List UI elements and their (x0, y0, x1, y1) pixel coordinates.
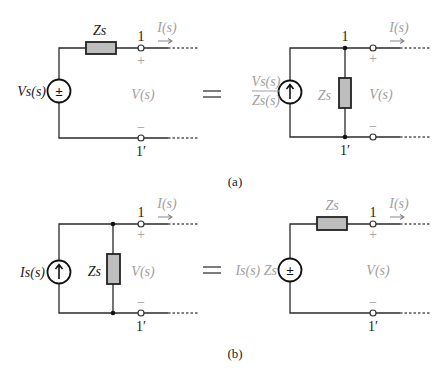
panel-a-equals (203, 91, 221, 97)
current-label: I(s) (156, 20, 177, 36)
source-label: Is(s) (19, 265, 45, 281)
plus-minus-glyph: ± (286, 263, 293, 278)
series-impedance (86, 42, 116, 54)
caption-b: (b) (227, 346, 242, 361)
panel-b-equals (203, 267, 221, 273)
current-label: I(s) (388, 196, 409, 212)
current-label: I(s) (388, 20, 409, 36)
terminal-1-prime-label: 1′ (136, 144, 146, 159)
terminal-1-label: 1 (138, 29, 145, 44)
terminal-1-prime-label: 1′ (368, 319, 378, 334)
shunt-impedance (107, 254, 120, 284)
voltage-label: V(s) (366, 263, 390, 279)
series-impedance (317, 217, 347, 230)
junction-node-bottom (111, 311, 116, 316)
terminal-1-prime-label: 1′ (340, 143, 350, 158)
voltage-label: V(s) (369, 87, 393, 103)
plus-sign: + (137, 227, 145, 242)
shunt-impedance (339, 78, 351, 108)
junction-node-top (343, 46, 348, 51)
plus-sign: + (369, 51, 377, 66)
minus-sign: − (137, 120, 145, 135)
source-label-numerator: Vs(s) (252, 74, 281, 90)
panel-b-right-circuit: Zs ± Is(s) Zs 1 1′ + − V(s) I(s) (234, 196, 430, 334)
plus-sign: + (369, 227, 377, 242)
terminal-1-prime (138, 310, 144, 316)
terminal-1-label: 1 (370, 205, 377, 220)
impedance-label: Zs (93, 23, 107, 38)
voltage-label: V(s) (131, 264, 155, 280)
panel-a-left-circuit: Zs ± Vs(s) 1 1′ + − V(s) I(s) (17, 20, 198, 159)
current-label: I(s) (156, 196, 177, 212)
panel-b-left-circuit: Zs Is(s) 1 1′ + − V(s) I(s) (19, 196, 198, 334)
terminal-1-prime (370, 310, 376, 316)
plus-minus-glyph: ± (55, 84, 62, 99)
current-arrow-icon (390, 215, 404, 220)
source-label-denominator: Zs(s) (252, 93, 280, 109)
junction-node-bottom (343, 135, 348, 140)
plus-sign: + (137, 53, 145, 68)
wire-top-left (59, 48, 86, 80)
minus-sign: − (369, 119, 377, 134)
caption-a: (a) (228, 174, 242, 189)
source-label: Is(s) Zs (234, 263, 277, 279)
impedance-label: Zs (88, 264, 102, 279)
impedance-label: Zs (318, 88, 332, 103)
terminal-1-prime-label: 1′ (136, 319, 146, 334)
current-arrow-icon (158, 215, 172, 220)
terminal-1-label: 1 (342, 29, 349, 44)
wire-bottom (290, 282, 400, 313)
terminal-1 (138, 45, 144, 51)
minus-sign: − (137, 295, 145, 310)
voltage-label: V(s) (131, 87, 155, 103)
terminal-1-prime (370, 134, 376, 140)
current-arrow-icon (390, 39, 404, 44)
junction-node-top (111, 222, 116, 227)
minus-sign: − (369, 295, 377, 310)
wire-top-left (290, 224, 317, 258)
panel-a-right-circuit: Zs Vs(s) Zs(s) 1 1′ + − V(s) I(s) (252, 20, 430, 158)
wire-bottom (59, 102, 168, 138)
source-label: Vs(s) (17, 84, 46, 100)
terminal-1-label: 1 (138, 205, 145, 220)
current-arrow-icon (158, 39, 172, 44)
impedance-label: Zs (325, 198, 339, 213)
terminal-1-prime (138, 135, 144, 141)
source-transformation-diagram: Zs ± Vs(s) 1 1′ + − V(s) I(s) Zs Vs (0, 0, 445, 373)
